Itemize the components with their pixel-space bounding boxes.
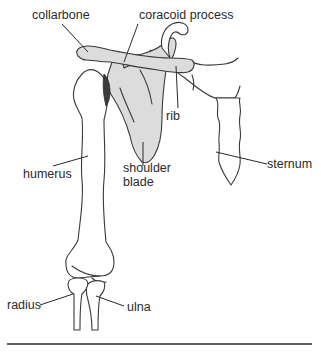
shoulder-arm-skeleton-diagram: collarbone coracoid process rib shoulder… (0, 0, 321, 352)
label-radius: radius (7, 298, 41, 312)
label-rib: rib (166, 109, 180, 123)
label-sternum: sternum (267, 157, 312, 171)
label-ulna: ulna (127, 300, 151, 314)
leader-ulna (96, 296, 124, 306)
label-humerus: humerus (23, 167, 72, 181)
label-collarbone: collarbone (32, 8, 90, 22)
leader-collarbone (62, 24, 88, 52)
label-shoulder-blade-line1: shoulder (123, 161, 171, 175)
label-shoulder-blade-line2: blade (123, 175, 154, 189)
sternum (216, 98, 241, 185)
leader-radius (40, 294, 73, 305)
label-coracoid-process: coracoid process (139, 8, 234, 22)
radius (68, 278, 88, 330)
ulna (87, 281, 105, 330)
